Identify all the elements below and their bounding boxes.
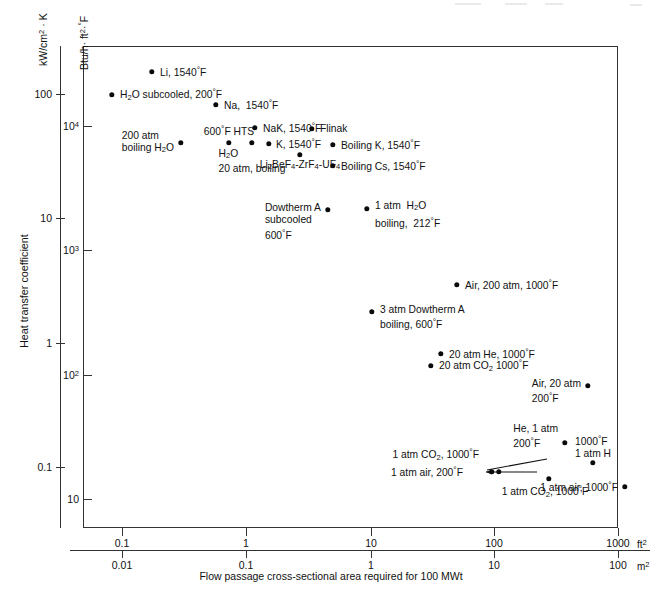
y-inner-tick-label: 102: [63, 370, 79, 381]
x-upper-tick: [122, 528, 123, 536]
x-lower-tick: [246, 550, 247, 558]
x-upper-tick-label: 100: [485, 538, 503, 549]
data-label-20atm-co2-1000f: 20 atm CO2 1000°F: [439, 357, 528, 375]
x-lower-tick: [122, 550, 123, 558]
y-outer-tick-label: 0.1: [37, 462, 52, 473]
scan-artifact: [455, 3, 481, 5]
y-outer-tick-label: 1: [46, 338, 52, 349]
data-label-na-1540f: Na, 1540°F: [224, 97, 278, 112]
x-upper-tick-label: 1000: [606, 538, 629, 549]
data-label-1atm-co2-1000f-a: 1 atm CO2, 1000°F: [392, 446, 479, 464]
data-label-200atm-boiling-h2o: 200 atmboiling H2O: [122, 130, 174, 157]
x-lower-tick-label: 1: [368, 560, 374, 571]
y-axis-inner-title: Btu/h· ft2·°F: [78, 16, 90, 70]
data-label-li-1540f: Li, 1540°F: [160, 64, 206, 79]
y-inner-tick: [83, 375, 92, 376]
data-label-h2o-subcooled-200f: H2O subcooled, 200°F: [120, 86, 222, 104]
data-label-1atm-air-200f: 1 atm air, 200°F: [391, 464, 463, 479]
x-upper-tick: [494, 528, 495, 536]
data-label-air-20atm-200f: Air, 20 atm200°F: [532, 378, 581, 406]
x-upper-tick-label: 1: [243, 538, 249, 549]
x-lower-tick: [618, 550, 619, 558]
x-lower-tick-label: 10: [488, 560, 500, 571]
data-label-boiling-cs-1540f: Boiling Cs, 1540°F: [341, 158, 426, 173]
x-upper-tick-label: 0.1: [115, 538, 130, 549]
x-lower-unit-label: m2: [637, 560, 650, 572]
y-axis-outer-title: kW/cm2 · K: [38, 13, 49, 66]
data-label-hts-600f: 600°F HTS: [204, 123, 254, 138]
x-axis-lower-line: [70, 550, 650, 551]
x-upper-tick: [371, 528, 372, 536]
data-label-k-1540f: K, 1540°F: [276, 136, 321, 151]
data-label-he-1atm-200f: He, 1 atm200°F: [513, 423, 558, 451]
x-lower-tick: [371, 550, 372, 558]
y-inner-tick: [83, 499, 92, 500]
x-lower-tick-label: 0.1: [239, 560, 254, 571]
y-inner-tick: [83, 250, 92, 251]
data-label-air-200atm-1000f: Air, 200 atm, 1000°F: [465, 277, 558, 292]
y-outer-tick: [56, 218, 65, 219]
data-label-1atm-h-1000f: 1000°F1 atm H: [575, 433, 611, 461]
x-upper-tick-label: 10: [365, 538, 377, 549]
y-outer-tick: [56, 94, 65, 95]
x-axis-label: Flow passage cross-sectional area requir…: [199, 570, 462, 582]
data-label-3atm-dowtherm-boil: 3 atm Dowtherm Aboiling, 600°F: [380, 304, 465, 332]
x-lower-tick-label: 100: [609, 560, 627, 571]
y-axis-label: Heat transfer coefficient: [19, 234, 30, 348]
y-outer-tick-label: 100: [34, 89, 52, 100]
y-inner-tick-label: 103: [63, 245, 79, 256]
y-inner-tick-label: 10: [67, 494, 79, 505]
y-outer-tick: [56, 467, 65, 468]
data-label-flinak: Flinak: [320, 123, 347, 135]
y-inner-tick-label: 104: [63, 121, 79, 132]
data-label-1atm-h2o-boiling: 1 atm H2Oboiling, 212°F: [375, 200, 440, 230]
scan-artifact: [505, 3, 527, 5]
x-upper-tick: [618, 528, 619, 536]
y-outer-tick-label: 10: [40, 213, 52, 224]
x-lower-tick: [494, 550, 495, 558]
y-outer-tick: [56, 343, 65, 344]
data-label-boiling-k-1540f: Boiling K, 1540°F: [341, 137, 420, 152]
data-label-dowtherm-a-subcooled: Dowtherm Asubcooled600°F: [265, 202, 321, 242]
x-lower-tick-label: 0.01: [112, 560, 132, 571]
y-inner-tick: [83, 126, 92, 127]
scan-artifact: [630, 4, 642, 6]
x-upper-tick: [246, 528, 247, 536]
figure-root: kW/cm2 · K 100 10 1 0.1 Btu/h· ft2·°F 10…: [0, 0, 663, 597]
data-label-li2bef4-zrf4-uf4: Li2BeF4-ZrF4-UF4: [260, 159, 340, 174]
data-point-1atm-air-1000f: [622, 484, 627, 489]
x-upper-unit-label: ft2: [637, 538, 647, 550]
scan-artifact: [545, 3, 563, 5]
data-label-1atm-air-1000f: 1 atm air, 1000°F: [540, 479, 618, 494]
y-axis-outer-line: [60, 46, 61, 528]
